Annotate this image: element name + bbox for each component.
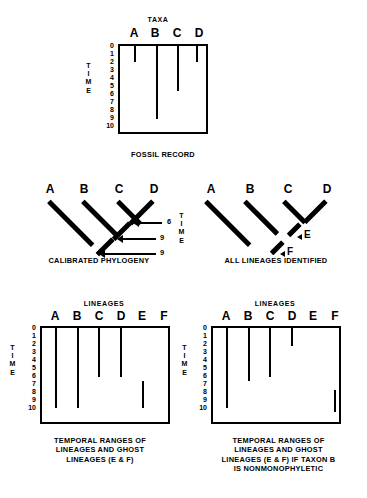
ranges-right-bar-d (291, 328, 293, 346)
tick-9: 9 (100, 114, 114, 122)
ranges-right-label-e: E (306, 310, 320, 322)
tick-10: 10 (100, 122, 114, 130)
tick-0: 0 (100, 42, 114, 50)
fossil-range-d (196, 46, 198, 62)
ranges-right-label-b: B (241, 310, 255, 322)
ranges-left-bar-b (77, 328, 79, 408)
taxon-label-a: A (127, 27, 141, 39)
tick-5: 5 (22, 364, 36, 372)
phylo-tip-label-a: A (43, 183, 57, 195)
tick-8: 8 (193, 388, 207, 396)
ranges-left-label-e: E (135, 310, 149, 322)
ranges-right-label-d: D (285, 310, 299, 322)
fossil-range-b (156, 46, 158, 119)
taxon-label-c: C (170, 27, 184, 39)
tick-2: 2 (193, 340, 207, 348)
ranges-left-caption-line-2: LINEAGES AND GHOST (20, 445, 180, 454)
taxon-label-d: D (192, 27, 206, 39)
tick-2: 2 (100, 58, 114, 66)
fossil-time-ticks: 0 1 2 3 4 5 6 7 8 9 10 (100, 42, 114, 130)
ranges-right-label-f: F (328, 310, 342, 322)
ranges-left-label-b: B (70, 310, 84, 322)
ghost-node-arrow-e (297, 234, 302, 240)
ranges-right-label-a: A (219, 310, 233, 322)
taxon-label-b: B (148, 27, 162, 39)
tick-9: 9 (22, 396, 36, 404)
ranges-left-header: LINEAGES (75, 300, 133, 307)
tick-6: 6 (193, 372, 207, 380)
alllin-tip-label-d: D (320, 183, 334, 195)
ranges-left-bar-e (142, 381, 144, 408)
ghost-node-label-e: E (304, 229, 311, 240)
tick-2: 2 (22, 340, 36, 348)
tick-5: 5 (100, 82, 114, 90)
tick-7: 7 (193, 380, 207, 388)
alllin-branch-b (243, 200, 279, 236)
fossil-time-axis-label: TIME (84, 62, 93, 95)
tick-6: 6 (22, 372, 36, 380)
phylo-node-age-9a: 9 (160, 233, 164, 242)
tick-8: 8 (22, 388, 36, 396)
ranges-left-bar-a (55, 328, 57, 408)
tick-10: 10 (193, 404, 207, 412)
fossil-range-c (177, 46, 179, 91)
alllin-tip-label-a: A (204, 183, 218, 195)
tick-3: 3 (100, 66, 114, 74)
calibrated-phylogeny-caption: CALIBRATED PHYLOGENY (14, 256, 184, 265)
ranges-right-caption-line-2: LINEAGES AND GHOST (196, 445, 361, 454)
ranges-right-caption: TEMPORAL RANGES OF LINEAGES AND GHOST LI… (196, 436, 361, 474)
ranges-left-caption: TEMPORAL RANGES OF LINEAGES AND GHOST LI… (20, 436, 180, 464)
ranges-right-time-axis-label: TIME (180, 344, 189, 377)
alllin-branch-a (204, 200, 251, 247)
tick-1: 1 (22, 332, 36, 340)
ranges-right-header: LINEAGES (246, 300, 304, 307)
alllin-tip-label-b: B (243, 183, 257, 195)
phylo-time-axis-label: TIME (177, 212, 186, 245)
ranges-left-label-f: F (157, 310, 171, 322)
tick-1: 1 (193, 332, 207, 340)
tick-0: 0 (22, 324, 36, 332)
tick-4: 4 (100, 74, 114, 82)
tick-6: 6 (100, 90, 114, 98)
ranges-right-bar-f (334, 390, 336, 412)
ranges-right-bar-b (248, 328, 250, 381)
tick-10: 10 (22, 404, 36, 412)
fossil-record-plot (118, 44, 208, 134)
tick-8: 8 (100, 106, 114, 114)
tick-3: 3 (193, 348, 207, 356)
fossil-record-caption: FOSSIL RECORD (113, 150, 213, 159)
ranges-right-bar-a (226, 328, 228, 408)
fossil-range-a (134, 46, 136, 62)
ranges-right-plot (211, 326, 341, 424)
phylo-tip-label-b: B (77, 183, 91, 195)
ranges-left-plot (40, 326, 170, 424)
phylo-node-age-6: 6 (167, 217, 171, 226)
ranges-left-bar-c (98, 328, 100, 377)
tick-5: 5 (193, 364, 207, 372)
tick-9: 9 (193, 396, 207, 404)
phylo-tip-label-c: C (112, 183, 126, 195)
all-lineages-identified-caption: ALL LINEAGES IDENTIFIED (196, 256, 356, 265)
ranges-left-time-ticks: 0 1 2 3 4 5 6 7 8 9 10 (22, 324, 36, 412)
ranges-left-time-axis-label: TIME (8, 344, 17, 377)
fossil-record-header: TAXA (138, 16, 178, 23)
alllin-tip-label-c: C (281, 183, 295, 195)
ranges-left-label-c: C (92, 310, 106, 322)
ranges-right-bar-c (269, 328, 271, 377)
tick-4: 4 (193, 356, 207, 364)
ranges-right-time-ticks: 0 1 2 3 4 5 6 7 8 9 10 (193, 324, 207, 412)
ranges-left-label-d: D (114, 310, 128, 322)
ranges-left-caption-line-3: LINEAGES (E & F) (20, 455, 180, 464)
ranges-right-label-c: C (263, 310, 277, 322)
tick-3: 3 (22, 348, 36, 356)
ranges-right-caption-line-1: TEMPORAL RANGES OF (196, 436, 361, 445)
tick-4: 4 (22, 356, 36, 364)
tick-0: 0 (193, 324, 207, 332)
tick-1: 1 (100, 50, 114, 58)
ranges-right-caption-line-4: IS NONMONOPHYLETIC (196, 464, 361, 473)
phylo-tip-label-d: D (147, 183, 161, 195)
tick-7: 7 (100, 98, 114, 106)
ranges-right-caption-line-3: LINEAGES (E & F) IF TAXON B (196, 455, 361, 464)
tick-7: 7 (22, 380, 36, 388)
alllin-branch-d (303, 200, 327, 224)
